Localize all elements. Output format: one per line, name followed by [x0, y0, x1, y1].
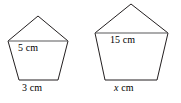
similar-shapes-figure: 5 cm 3 cm 15 cm x cm: [0, 0, 181, 103]
small-pentagon-base-label: 3 cm: [22, 82, 42, 93]
large-pentagon-base-label: x cm: [114, 82, 134, 93]
base-unit-text: cm: [121, 82, 133, 93]
small-pentagon-chord-label: 5 cm: [18, 42, 38, 53]
large-pentagon-chord-label: 15 cm: [110, 34, 135, 45]
base-variable-symbol: x: [114, 82, 119, 93]
